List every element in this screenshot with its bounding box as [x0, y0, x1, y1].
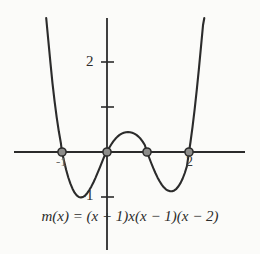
equation-text: m(x) = (x + 1)x(x − 1)(x − 2) [41, 208, 218, 224]
root-marker-zero [103, 148, 111, 156]
root-marker-one [143, 148, 151, 156]
polynomial-curve [46, 18, 204, 198]
polynomial-graph-figure: 2 -1 -1 2 m(x) = (x + 1)x(x − 1)(x − 2) [0, 0, 260, 254]
equation-caption: m(x) = (x + 1)x(x − 1)(x − 2) [0, 208, 260, 225]
y-axis-label-negative-1: -1 [81, 188, 94, 203]
x-axis-label-2: 2 [186, 155, 193, 169]
y-axis-label-2: 2 [86, 54, 94, 69]
x-axis-label-negative-1: -1 [56, 155, 67, 168]
